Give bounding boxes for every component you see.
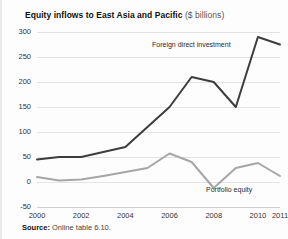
annotation-portfolio-equity: Portfolio equity — [206, 186, 252, 193]
series-lines — [37, 32, 280, 207]
source-note: Source: Online table 6.10. — [22, 223, 111, 232]
y-tick-label--50: -50 — [0, 203, 31, 211]
chart-title: Equity inflows to East Asia and Pacific … — [25, 10, 224, 20]
gridline--50 — [37, 207, 280, 208]
plot-area — [37, 32, 280, 207]
y-tick-label-100: 100 — [0, 128, 31, 136]
y-tick-label-200: 200 — [0, 78, 31, 86]
x-tick-label-2008: 2008 — [205, 211, 222, 220]
x-tick-label-2002: 2002 — [73, 211, 90, 220]
x-tick-label-2011: 2011 — [272, 211, 288, 220]
annotation-foreign-direct-investment: Foreign direct investment — [152, 41, 231, 48]
y-tick-label-150: 150 — [0, 103, 31, 111]
chart-figure: Equity inflows to East Asia and Pacific … — [0, 0, 288, 239]
y-tick-label-300: 300 — [0, 28, 31, 36]
source-text: Online table 6.10. — [52, 223, 111, 232]
x-tick-label-2000: 2000 — [29, 211, 46, 220]
x-tick-label-2010: 2010 — [250, 211, 267, 220]
y-tick-label-50: 50 — [0, 153, 31, 161]
chart-title-main: Equity inflows to East Asia and Pacific — [25, 10, 183, 20]
chart-title-units: ($ billions) — [185, 10, 224, 20]
series-line-foreign-direct-investment — [37, 37, 280, 160]
source-label: Source: — [22, 223, 50, 232]
y-tick-label-0: 0 — [0, 178, 31, 186]
series-line-portfolio-equity — [37, 154, 280, 189]
y-tick-label-250: 250 — [0, 53, 31, 61]
y-axis-labels: 300250200150100500-50 — [0, 32, 33, 207]
x-tick-label-2006: 2006 — [161, 211, 178, 220]
x-tick-label-2004: 2004 — [117, 211, 134, 220]
